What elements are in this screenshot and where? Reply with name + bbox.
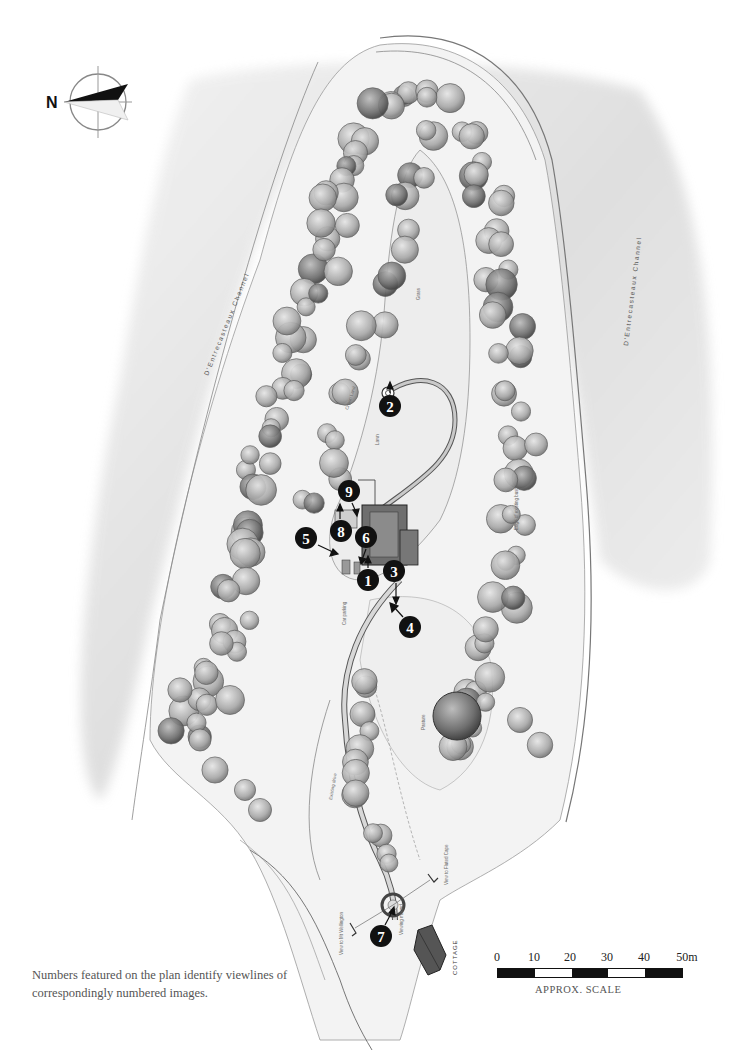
tree-icon [256,386,277,407]
tree-icon [414,167,435,188]
scale-tick: 50m [676,950,697,965]
tree-icon [343,780,369,806]
tree-icon [240,611,258,629]
tree-icon [416,121,436,141]
tree-icon [378,262,406,290]
tree-icon [386,184,408,206]
tree-icon [417,87,437,107]
tree-icon [168,678,192,702]
viewpoint-number: 5 [302,531,310,547]
tree-icon [489,190,515,216]
tree-icon [273,307,301,335]
label-pasture: Pasture [421,714,426,730]
tree-icon [352,669,378,695]
tree-icon [489,344,509,364]
viewpoint-marker-9: 9 [338,480,360,502]
tree-icon [502,586,525,609]
viewpoint-marker-1: 1 [357,569,379,591]
tree-icon [473,617,498,642]
tree-icon [273,343,292,362]
tree-icon [491,551,520,580]
tree-icon [246,475,277,506]
scale-bar-legend: 0 10 20 30 40 50m APPROX. SCALE [497,950,707,978]
viewpoint-marker-5: 5 [295,527,317,549]
scale-bar [497,968,683,978]
tree-icon [230,538,260,568]
viewpoint-marker-7: 7 [370,925,392,947]
scale-tick: 40 [638,950,650,965]
tree-icon [324,257,352,285]
tree-icon [195,661,218,684]
scale-tick: 20 [564,950,576,965]
tree-icon [462,185,485,208]
north-arrow-compass-icon: N [46,66,132,138]
tree-icon [259,453,281,475]
tree-icon [495,381,515,401]
scale-segment [535,969,572,977]
tree-icon [506,337,534,365]
tree-icon [215,685,244,714]
tree-icon [217,580,239,602]
tree-icon [202,757,228,783]
tree-icon [489,232,514,257]
scale-segment [645,969,682,977]
viewpoint-number: 2 [386,399,394,415]
viewpoint-number: 6 [362,530,370,546]
label-cottage: COTTAGE [452,939,458,975]
viewpoint-number: 8 [337,524,345,540]
tree-icon [259,425,282,448]
tree-icon [510,314,536,340]
tree-icon [391,236,418,263]
label-view-mt-wellington: View to Mt Wellington [339,911,344,955]
tree-icon [475,662,505,692]
viewpoint-number: 9 [345,484,353,500]
tree-icon [346,311,376,341]
plan-caption: Numbers featured on the plan identify vi… [32,966,292,1002]
tree-icon [503,436,527,460]
tree-icon [320,448,349,477]
scale-segment [608,969,645,977]
scale-tick: 0 [494,950,500,965]
specimen-tree [433,692,481,740]
tree-icon [527,732,553,758]
tree-icon [234,779,255,800]
tree-icon [380,854,398,872]
tree-icon [210,632,234,656]
tree-icon [459,124,484,149]
label-grass: Grass [416,287,421,300]
tree-icon [325,431,344,450]
north-label: N [46,94,58,111]
label-lawn: Lawn [375,434,380,445]
viewpoint-marker-3: 3 [383,560,405,582]
viewpoint-number: 4 [406,620,414,636]
tree-icon [525,433,548,456]
viewpoint-marker-2: 2 [379,395,401,417]
tree-icon [309,184,337,212]
viewpoint-marker-8: 8 [330,520,352,542]
scale-title: APPROX. SCALE [535,984,621,995]
tree-icon [196,694,217,715]
viewpoint-marker-4: 4 [399,616,421,638]
label-edge-of-bush: Edge of existing bush [514,486,519,530]
viewpoint-marker-6: 6 [355,526,377,548]
scale-tick: 30 [601,950,613,965]
tree-icon [479,302,506,329]
site-plan-map: D'Entrecasteaux Channel D'Entrecasteaux … [0,0,729,1061]
scale-tick-labels: 0 10 20 30 40 50m [497,950,707,966]
tree-icon [241,446,259,464]
tree-icon [304,493,324,513]
tree-icon [345,345,366,366]
tree-icon [158,718,184,744]
tree-icon [507,707,532,732]
viewpoint-number: 1 [364,573,372,589]
tree-icon [364,824,383,843]
tree-icon [357,88,388,119]
tree-icon [511,402,530,421]
scale-tick: 10 [528,950,540,965]
tree-icon [307,209,335,237]
tree-icon [436,84,465,113]
tree-icon [464,162,488,186]
tree-icon [309,284,328,303]
tree-icon [189,729,211,751]
label-viewing-mound: Viewing mound [399,904,404,935]
